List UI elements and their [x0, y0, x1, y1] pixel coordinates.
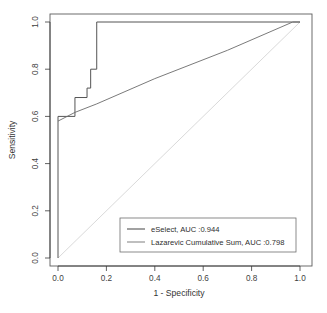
chart-legend: eSelect, AUC :0.944 Lazarevic Cumulative…	[120, 218, 296, 252]
y-tick-label: 0.8	[31, 63, 40, 75]
legend-label-eselect: eSelect, AUC :0.944	[151, 225, 219, 234]
y-tick-label: 0.0	[31, 252, 40, 264]
x-tick-label: 0.8	[246, 274, 258, 283]
x-tick-label: 0.6	[198, 274, 210, 283]
roc-chart: 0.00.20.40.60.81.0 0.00.20.40.60.81.0 1 …	[0, 0, 327, 313]
x-tick-label: 1.0	[294, 274, 306, 283]
y-tick-label: 0.4	[31, 157, 40, 169]
y-tick-label: 0.2	[31, 205, 40, 217]
y-axis-title: Sensitivity	[7, 120, 17, 159]
roc-plot-container: 0.00.20.40.60.81.0 0.00.20.40.60.81.0 1 …	[0, 0, 327, 313]
y-tick-label: 0.6	[31, 110, 40, 122]
x-tick-label: 0.2	[101, 274, 113, 283]
x-axis-title: 1 - Specificity	[153, 288, 205, 298]
y-tick-label: 1.0	[31, 16, 40, 28]
x-tick-label: 0.4	[149, 274, 161, 283]
x-tick-label: 0.0	[52, 274, 64, 283]
legend-label-lazarevic: Lazarevic Cumulative Sum, AUC :0.798	[151, 238, 284, 247]
